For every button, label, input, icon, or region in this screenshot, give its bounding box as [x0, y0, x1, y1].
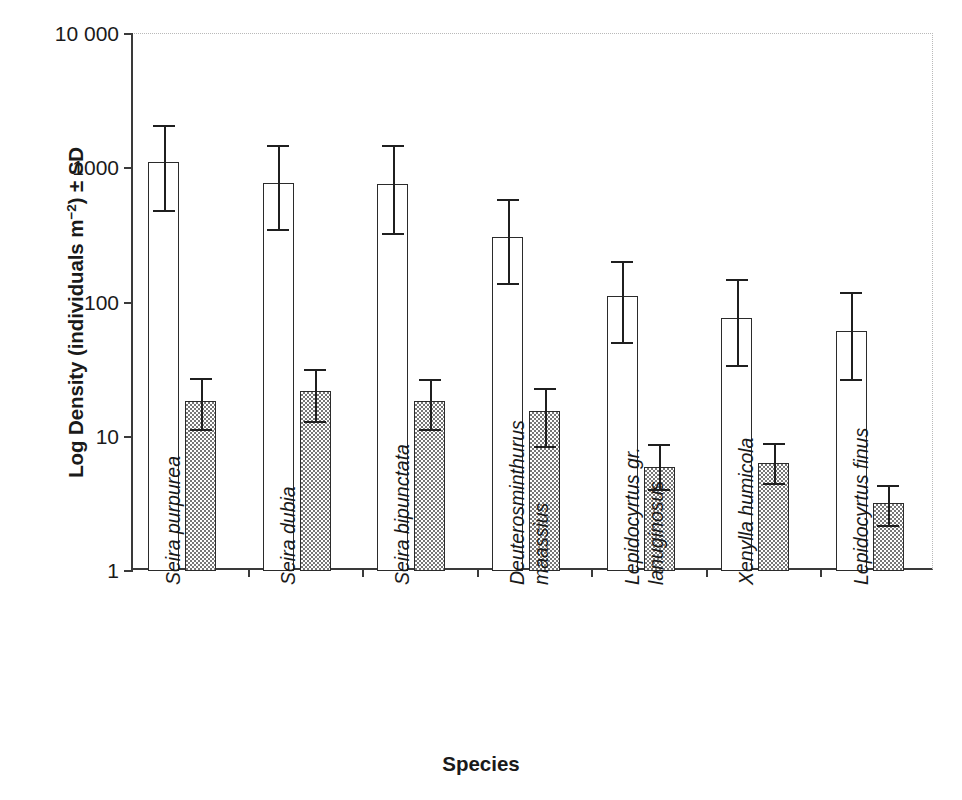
figure-log-density-by-species: Log Density (individuals m−2) ± SD 11010…: [0, 0, 962, 800]
error-bar-cap-upper: [648, 444, 670, 446]
y-axis-tick-label: 1000: [0, 156, 119, 180]
error-bar-cap-lower: [763, 483, 785, 485]
error-bar-cap-upper: [497, 199, 519, 201]
error-bar-line: [430, 379, 432, 429]
error-bar-cap-upper: [304, 369, 326, 371]
x-axis-category-label: Seira bipunctata: [391, 444, 415, 585]
error-bar-cap-upper: [611, 261, 633, 263]
x-axis-category-label-line: Deuterosminthurus: [506, 420, 528, 585]
y-axis-tick: [124, 436, 133, 438]
error-bar-cap-lower: [840, 379, 862, 381]
y-axis-tick: [124, 167, 133, 169]
error-bar-cap-lower: [190, 429, 212, 431]
x-axis-category-label-line: Xenylla humicola: [735, 438, 757, 585]
error-bar-cap-lower: [267, 229, 289, 231]
x-axis-category-label-line: Lepidocyrtus finus: [850, 428, 872, 585]
error-bar-cap-upper: [840, 292, 862, 294]
y-axis-tick: [124, 302, 133, 304]
y-axis-tick-label: 1: [0, 559, 119, 583]
error-bar-line: [315, 369, 317, 422]
x-axis-category-label: Lepidocyrtus finus: [850, 428, 874, 585]
y-axis-tick-label: 10 000: [0, 22, 119, 46]
x-axis-category-label: Xenylla humicola: [735, 438, 759, 585]
error-bar-cap-lower: [419, 429, 441, 431]
error-bar-line: [888, 485, 890, 525]
error-bar-line: [164, 125, 166, 210]
y-axis-title-exponent: −2: [64, 204, 79, 219]
error-bar-cap-lower: [153, 210, 175, 212]
x-axis-tick: [820, 568, 822, 577]
error-bar-cap-lower: [611, 342, 633, 344]
x-axis-category-label-line: Seira dubia: [277, 486, 299, 585]
error-bar-cap-lower: [497, 283, 519, 285]
x-axis-tick: [591, 568, 593, 577]
error-bar-line: [737, 279, 739, 366]
x-axis-category-label: Seira purpurea: [162, 456, 186, 585]
y-axis-tick: [124, 570, 133, 572]
y-axis-tick: [124, 33, 133, 35]
error-bar-cap-upper: [419, 379, 441, 381]
x-axis-category-label: Deuterosminthurusmaassius: [506, 420, 554, 585]
x-axis-category-label-line: Seira purpurea: [162, 456, 184, 585]
x-axis-tick: [362, 568, 364, 577]
x-axis-category-label-line: Seira bipunctata: [391, 444, 413, 585]
error-bar-line: [851, 292, 853, 379]
x-axis-tick: [248, 568, 250, 577]
error-bar-line: [774, 443, 776, 483]
error-bar-cap-upper: [153, 125, 175, 127]
error-bar-cap-lower: [877, 525, 899, 527]
error-bar-line: [622, 261, 624, 342]
x-axis-category-label-line: Lepidocyrtus gr.: [621, 447, 643, 585]
error-bar-cap-upper: [726, 279, 748, 281]
x-axis-category-label-line: maassius: [530, 420, 554, 585]
x-axis-title: Species: [0, 752, 962, 776]
error-bar-cap-lower: [726, 365, 748, 367]
x-axis-category-label: Seira dubia: [277, 486, 301, 585]
error-bar-line: [508, 199, 510, 283]
x-axis-category-label: Lepidocyrtus gr.lanuginosus: [621, 447, 669, 585]
error-bar-cap-upper: [267, 145, 289, 147]
error-bar-cap-upper: [877, 485, 899, 487]
error-bar-cap-lower: [382, 233, 404, 235]
error-bar-cap-upper: [382, 145, 404, 147]
error-bar-cap-upper: [534, 388, 556, 390]
error-bar-line: [278, 145, 280, 229]
y-axis-tick-label: 10: [0, 425, 119, 449]
error-bar-cap-lower: [304, 421, 326, 423]
x-axis-category-label-line: lanuginosus: [644, 447, 668, 585]
x-axis-tick: [477, 568, 479, 577]
x-axis-tick: [706, 568, 708, 577]
error-bar-cap-upper: [190, 378, 212, 380]
error-bar-line: [393, 145, 395, 232]
error-bar-line: [201, 378, 203, 429]
error-bar-cap-upper: [763, 443, 785, 445]
y-axis-tick-label: 100: [0, 291, 119, 315]
